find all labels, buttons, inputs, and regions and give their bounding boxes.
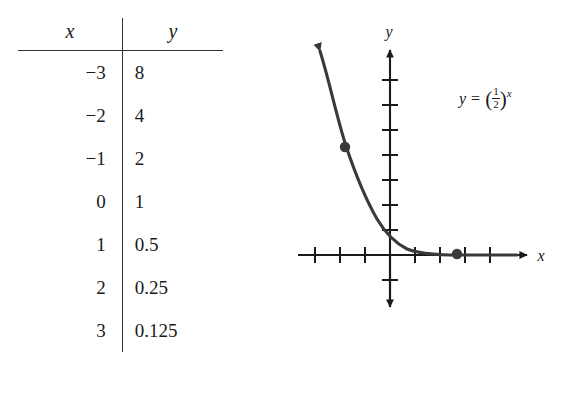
y-axis-label: y — [383, 23, 393, 41]
column-header-y: y — [122, 18, 223, 51]
equation-lhs: y — [459, 90, 466, 107]
curve-path — [320, 51, 517, 255]
coordinate-graph: y x — [285, 10, 567, 320]
table-header: x y — [18, 18, 223, 51]
fraction-denominator: 2 — [492, 99, 500, 111]
cell-x: −3 — [18, 51, 122, 95]
exponential-function-figure: x y −3 8 −2 4 −1 2 0 1 — [0, 0, 567, 401]
cell-x: −1 — [18, 137, 122, 180]
table-header-row: x y — [18, 18, 223, 51]
cell-y: 0.25 — [122, 266, 223, 309]
table-row: −1 2 — [18, 137, 223, 180]
cell-y: 1 — [122, 180, 223, 223]
cell-x: 3 — [18, 309, 122, 352]
table-body: −3 8 −2 4 −1 2 0 1 1 0.5 — [18, 51, 223, 353]
cell-y: 8 — [122, 51, 223, 95]
y-axis — [382, 50, 398, 307]
column-header-x: x — [18, 18, 122, 51]
table-row: 0 1 — [18, 180, 223, 223]
data-point — [452, 249, 462, 259]
equation-annotation: y=(12)x — [459, 86, 512, 110]
cell-x: −2 — [18, 94, 122, 137]
cell-x: 0 — [18, 180, 122, 223]
table-row: −2 4 — [18, 94, 223, 137]
data-point — [340, 142, 350, 152]
table-row: 3 0.125 — [18, 309, 223, 352]
xy-table: x y −3 8 −2 4 −1 2 0 1 — [18, 18, 223, 352]
cell-x: 2 — [18, 266, 122, 309]
cell-y: 0.5 — [122, 223, 223, 266]
table-row: 2 0.25 — [18, 266, 223, 309]
cell-y: 0.125 — [122, 309, 223, 352]
cell-y: 4 — [122, 94, 223, 137]
value-table: x y −3 8 −2 4 −1 2 0 1 — [18, 18, 223, 352]
graph-svg: y x — [285, 10, 567, 320]
equation-equals-sign: = — [471, 90, 480, 107]
exponent: x — [507, 87, 512, 99]
table-row: −3 8 — [18, 51, 223, 95]
fraction-numerator: 1 — [492, 86, 500, 99]
x-axis-label: x — [536, 247, 544, 264]
close-paren: ) — [500, 87, 507, 111]
open-paren: ( — [485, 87, 492, 111]
cell-x: 1 — [18, 223, 122, 266]
fraction-one-half: 12 — [492, 86, 500, 110]
cell-y: 2 — [122, 137, 223, 180]
exponential-curve — [320, 51, 517, 255]
plotted-points — [340, 142, 462, 259]
table-row: 1 0.5 — [18, 223, 223, 266]
